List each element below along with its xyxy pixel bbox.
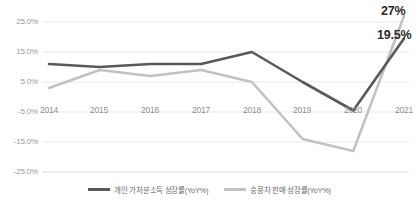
x-axis-tick-2020: 2020 [333, 105, 373, 115]
legend-label-passenger-car-sales: 승용차 판매 성장률(YoY%) [250, 184, 331, 195]
y-axis-tick-5: 5.0% [0, 77, 38, 86]
y-axis-tick-15: 15.0% [0, 47, 38, 56]
series-line-disposable-income [49, 39, 404, 111]
legend-swatch-icon-light [224, 188, 246, 191]
y-axis-tick-neg25: -25.0% [0, 167, 38, 176]
chart-legend: 개인 가처분소득 성장률(YoY%) 승용차 판매 성장률(YoY%) [0, 184, 419, 195]
legend-item-passenger-car-sales[interactable]: 승용차 판매 성장률(YoY%) [224, 184, 331, 195]
y-axis-tick-25: 25.0% [0, 17, 38, 26]
data-label-disposable-income-2021: 19.5% [377, 28, 411, 42]
x-axis-tick-2014: 2014 [29, 105, 69, 115]
x-axis-tick-2016: 2016 [130, 105, 170, 115]
x-axis-tick-2018: 2018 [232, 105, 272, 115]
series-line-passenger-car-sales [49, 16, 404, 151]
x-axis-tick-2017: 2017 [181, 105, 221, 115]
y-axis-tick-neg15: -15.0% [0, 137, 38, 146]
legend-item-disposable-income[interactable]: 개인 가처분소득 성장률(YoY%) [88, 184, 208, 195]
chart-container: 25.0% 15.0% 5.0% -5.0% -15.0% -25.0% 201… [0, 0, 419, 209]
x-axis-tick-2019: 2019 [282, 105, 322, 115]
legend-swatch-icon-dark [88, 188, 110, 191]
x-axis-tick-2015: 2015 [79, 105, 119, 115]
data-label-passenger-car-2021: 27% [381, 4, 405, 18]
legend-label-disposable-income: 개인 가처분소득 성장률(YoY%) [114, 184, 208, 195]
x-axis-tick-2021: 2021 [384, 105, 419, 115]
